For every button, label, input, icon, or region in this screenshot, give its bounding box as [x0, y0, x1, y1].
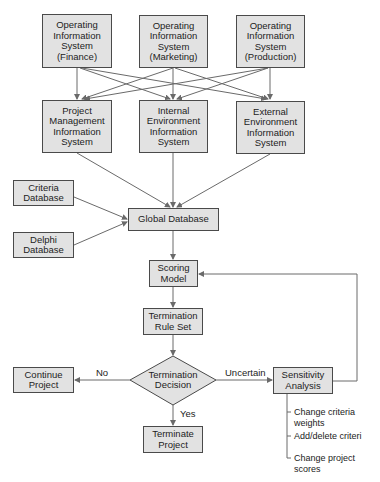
external-environment-info-system: External Environment Information System [236, 101, 305, 154]
termination-decision-label: Termination Decision [135, 368, 211, 392]
criteria-database: Criteria Database [13, 180, 74, 206]
terminate-project: Terminate Project [143, 426, 203, 453]
operating-info-system-production: Operating Information System (Production… [236, 15, 305, 68]
edge-label-yes: Yes [180, 408, 196, 419]
sensitivity-analysis: Sensitivity Analysis [273, 367, 333, 394]
project-management-info-system: Project Management Information System [42, 100, 112, 153]
global-database: Global Database [128, 208, 219, 231]
edge-label-uncertain: Uncertain [225, 367, 266, 378]
sensitivity-option-criteria-weights: Change criteria weights [294, 407, 355, 428]
sensitivity-option-add-delete-criteria: Add/delete criteri [294, 431, 362, 442]
delphi-database: Delphi Database [13, 232, 74, 258]
continue-project: Continue Project [13, 367, 74, 393]
edge-label-no: No [96, 367, 108, 378]
sensitivity-option-project-scores: Change project scores [294, 453, 355, 474]
operating-info-system-finance: Operating Information System (Finance) [42, 14, 112, 68]
termination-rule-set: Termination Rule Set [143, 308, 203, 335]
internal-environment-info-system: Internal Environment Information System [139, 100, 208, 153]
scoring-model: Scoring Model [149, 260, 198, 287]
operating-info-system-marketing: Operating Information System (Marketing) [139, 15, 208, 68]
